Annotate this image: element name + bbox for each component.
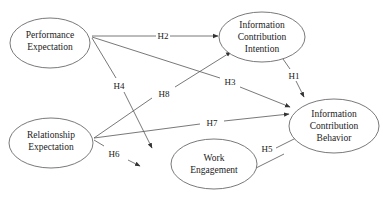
edge-label-h8: H8 — [159, 89, 170, 99]
edge-h5-line-a — [256, 154, 284, 168]
node-work-engagement: Work Engagement — [171, 139, 257, 189]
edge-h4-line-a — [92, 38, 116, 78]
edge-h6: H6 — [94, 140, 140, 166]
edge-label-h7: H7 — [207, 118, 218, 128]
edge-h7-line-b — [224, 114, 289, 121]
node-label-line1: Information — [239, 20, 285, 30]
node-label-line1: Relationship — [27, 130, 75, 140]
node-label-line3: Behavior — [317, 133, 353, 143]
edge-label-h2: H2 — [158, 31, 169, 41]
hypothesis-model-diagram: H2 H3 H4 H8 H7 H6 H5 H1 Performanc — [0, 0, 383, 197]
node-information-contribution-intention: Information Contribution Intention — [219, 12, 305, 62]
edge-h4-line-b — [124, 92, 152, 148]
edge-h6-line-b — [128, 160, 140, 166]
edge-label-h5: H5 — [262, 144, 273, 154]
edge-h1-line-b — [296, 81, 304, 97]
edge-label-h4: H4 — [114, 81, 125, 91]
ellipse-work-engagement — [171, 139, 257, 189]
node-label-line2: Expectation — [27, 42, 73, 52]
node-label-line1: Work — [204, 153, 225, 163]
edge-h2: H2 — [92, 31, 218, 41]
node-label-line3: Intention — [245, 44, 280, 54]
edge-label-h1: H1 — [289, 71, 300, 81]
edge-h3-line-b — [240, 87, 290, 107]
node-label-line2: Engagement — [190, 165, 238, 175]
node-label-line1: Performance — [26, 30, 75, 40]
node-label-line2: Expectation — [28, 142, 74, 152]
edge-h7-line-a — [94, 124, 200, 138]
edge-label-h6: H6 — [109, 149, 120, 159]
edge-h8-line-a — [94, 98, 152, 138]
edge-h3-line-a — [92, 37, 220, 78]
node-label-line1: Information — [311, 109, 357, 119]
node-relationship-expectation: Relationship Expectation — [9, 118, 93, 168]
edge-label-h3: H3 — [225, 77, 236, 87]
node-performance-expectation: Performance Expectation — [10, 18, 90, 68]
node-information-contribution-behavior: Information Contribution Behavior — [289, 99, 379, 153]
edge-h8-line-b — [175, 52, 231, 87]
edge-h6-line-a — [94, 140, 104, 146]
node-label-line2: Contribution — [238, 32, 287, 42]
edge-h1-line-a — [283, 59, 290, 69]
node-label-line2: Contribution — [310, 121, 359, 131]
edge-h1: H1 — [283, 59, 304, 97]
